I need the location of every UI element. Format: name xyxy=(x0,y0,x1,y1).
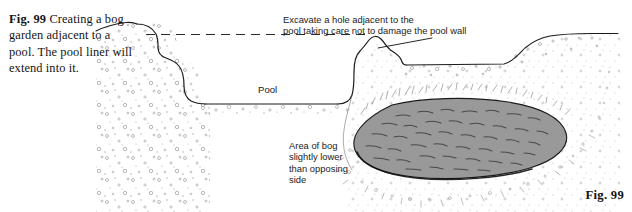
figure-corner-label: Fig. 99 xyxy=(586,188,624,203)
figure-caption-number: Fig. 99 xyxy=(9,12,46,26)
annotation-pool-label: Pool xyxy=(258,84,277,95)
annotation-area-of-bog: Area of bog slightly lower than opposing… xyxy=(289,140,348,185)
figure-page: Excavate a hole adjacent to the pool tak… xyxy=(0,0,632,212)
pool-floor-stipple xyxy=(201,105,348,114)
annotation-excavate-hole: Excavate a hole adjacent to the pool tak… xyxy=(283,14,466,37)
bog-area-fill xyxy=(354,98,567,178)
leader-line-to-pool-wall xyxy=(378,38,432,48)
figure-caption: Fig. 99 Creating a bog garden adjacent t… xyxy=(9,11,137,77)
